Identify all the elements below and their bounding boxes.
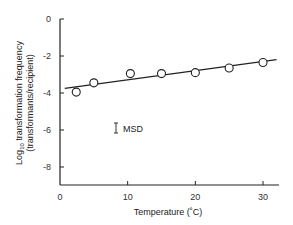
- x-tick-label: 20: [190, 192, 200, 202]
- x-tick-label: 0: [57, 192, 62, 202]
- y-axis-label-rest: transformation frequency: [14, 41, 24, 144]
- data-point: [191, 69, 199, 77]
- y-tick-label: -2: [43, 51, 51, 61]
- y-axis-label-prefix: Log: [14, 150, 24, 165]
- y-tick-label: 0: [46, 14, 51, 24]
- y-tick-label: -4: [43, 88, 51, 98]
- msd-label: MSD: [123, 124, 144, 134]
- x-axis-label: Temperature (˚C): [134, 207, 203, 217]
- scatter-chart: 0-2-4-6-8 0102030 Temperature (˚C) Log10…: [0, 0, 293, 225]
- error-bar-icon: [114, 123, 118, 133]
- data-point: [158, 70, 166, 78]
- svg-text:Log10 transformation frequency: Log10 transformation frequency: [14, 41, 25, 165]
- data-point: [225, 64, 233, 72]
- x-tick-label: 30: [258, 192, 268, 202]
- y-axis-label: Log10 transformation frequency (transfor…: [14, 41, 35, 165]
- data-point: [259, 58, 267, 66]
- data-point: [90, 79, 98, 87]
- x-ticks: 0102030: [57, 181, 268, 202]
- axes: [60, 19, 279, 185]
- y-tick-label: -8: [43, 162, 51, 172]
- y-tick-label: -6: [43, 125, 51, 135]
- data-series: [65, 58, 277, 96]
- y-axis-label-line2: (transformants/recipient): [25, 54, 35, 152]
- data-point: [126, 70, 134, 78]
- y-ticks: 0-2-4-6-8: [43, 14, 64, 172]
- x-tick-label: 10: [123, 192, 133, 202]
- msd-annotation: MSD: [114, 123, 144, 134]
- data-point: [72, 88, 80, 96]
